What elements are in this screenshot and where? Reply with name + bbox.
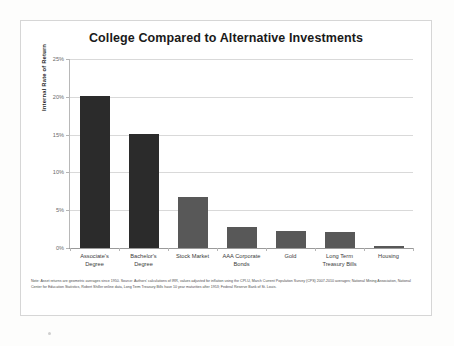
x-axis-category-label: Stock Market [168, 253, 217, 268]
scan-artifact-speck [48, 332, 51, 335]
bar-slot [217, 59, 266, 248]
chart-title: College Compared to Alternative Investme… [21, 31, 431, 45]
bar-stock-market [178, 197, 208, 248]
x-tick-slot [364, 248, 413, 252]
x-axis-labels: Associate'sDegreeBachelor'sDegreeStock M… [70, 253, 413, 268]
x-tick-mark [266, 248, 267, 251]
bar-bachelor-s-degree [129, 134, 159, 248]
bar-slot [168, 59, 217, 248]
x-axis-category-label: Bachelor'sDegree [119, 253, 168, 268]
x-tick-slot [119, 248, 168, 252]
bar-slot [119, 59, 168, 248]
x-tick-mark [168, 248, 169, 251]
y-tick-mark [66, 248, 69, 249]
bar-slot [266, 59, 315, 248]
x-tick-slot [315, 248, 364, 252]
bar-slot [364, 59, 413, 248]
y-axis-tick-label: 15% [53, 132, 64, 138]
x-tick-slot [168, 248, 217, 252]
x-tick-mark [315, 248, 316, 251]
x-tick-slot [70, 248, 119, 252]
bar-slot [315, 59, 364, 248]
x-tick-mark [119, 248, 120, 251]
bars-group [70, 59, 413, 248]
x-axis-category-label: AAA CorporateBonds [217, 253, 266, 268]
x-tick-mark [413, 248, 414, 251]
bar-slot [70, 59, 119, 248]
x-axis-category-label: Gold [266, 253, 315, 268]
x-tick-slot [266, 248, 315, 252]
figure-footnote: Note: Asset returns are geometric averag… [31, 279, 421, 290]
y-axis-tick-label: 20% [53, 94, 64, 100]
x-tick-mark [70, 248, 71, 251]
y-axis-tick-label: 0% [56, 245, 64, 251]
bar-associate-s-degree [80, 96, 110, 248]
y-axis-title: Internal Rate of Return [41, 44, 47, 111]
x-axis-category-label: Housing [364, 253, 413, 268]
x-axis-category-label: Associate'sDegree [70, 253, 119, 268]
x-tick-slot [217, 248, 266, 252]
y-axis-tick-label: 10% [53, 169, 64, 175]
y-axis-tick-label: 25% [53, 56, 64, 62]
x-axis-ticks [70, 248, 413, 252]
figure-container: College Compared to Alternative Investme… [20, 20, 432, 316]
bar-gold [276, 231, 306, 248]
plot-area: 0%5%10%15%20%25% Associate'sDegreeBachel… [69, 59, 413, 269]
x-tick-mark [364, 248, 365, 251]
x-tick-mark [217, 248, 218, 251]
bar-aaa-corporate-bonds [227, 227, 257, 248]
x-axis-category-label: Long TermTreasury Bills [315, 253, 364, 268]
bar-long-term-treasury-bills [325, 232, 355, 248]
y-axis-tick-label: 5% [56, 207, 64, 213]
